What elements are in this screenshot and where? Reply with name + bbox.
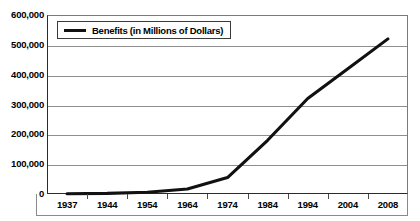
y-axis-tick-label: 100,000 xyxy=(0,159,44,169)
x-axis-tick-label: 1944 xyxy=(97,199,117,211)
x-axis-tick-label: 2008 xyxy=(378,199,398,211)
y-axis-tick-label: 0 xyxy=(0,189,44,199)
y-axis-label-group: 0100,000200,000300,000400,000500,000600,… xyxy=(0,0,44,221)
x-axis-tick-label: 1954 xyxy=(137,199,157,211)
y-axis-tick-label: 600,000 xyxy=(0,10,44,20)
y-axis-tick-label: 500,000 xyxy=(0,40,44,50)
x-axis-tick-label: 1984 xyxy=(257,199,277,211)
frame-bottom-rule xyxy=(36,215,408,216)
x-axis-tick-label: 1994 xyxy=(298,199,318,211)
y-axis-tick-label: 400,000 xyxy=(0,70,44,80)
legend-item-label: Benefits (in Millions of Dollars) xyxy=(92,25,223,36)
series-benefits xyxy=(47,15,408,194)
x-axis-tick-label: 2004 xyxy=(338,199,358,211)
y-axis-tick-label: 200,000 xyxy=(0,129,44,139)
line-swatch-icon xyxy=(64,29,86,32)
x-axis-label-group: 193719441954196419741984199420042008 xyxy=(47,199,408,213)
x-axis-tick-label: 1974 xyxy=(217,199,237,211)
chart-legend: Benefits (in Millions of Dollars) xyxy=(57,21,231,39)
x-axis-tick-label: 1937 xyxy=(57,199,77,211)
frame-left-rule xyxy=(36,194,37,216)
frame-right-rule xyxy=(407,194,408,216)
y-axis-tick-label: 300,000 xyxy=(0,100,44,110)
x-axis-tick-label: 1964 xyxy=(177,199,197,211)
line-chart: 0100,000200,000300,000400,000500,000600,… xyxy=(0,0,420,221)
